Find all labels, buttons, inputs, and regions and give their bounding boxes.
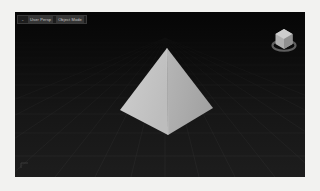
viewport-header-overlay[interactable]: ⌄ User Persp Object Mode (17, 15, 87, 24)
view-cube-gizmo[interactable] (267, 22, 301, 56)
screenshot-root: ⌄ User Persp Object Mode (0, 0, 320, 191)
object-mode-label[interactable]: Object Mode (56, 16, 84, 23)
view-perspective-label[interactable]: User Persp (28, 16, 53, 23)
chevron-down-icon[interactable]: ⌄ (20, 16, 25, 23)
viewport-canvas[interactable] (15, 12, 305, 177)
corner-mark-icon (20, 162, 29, 169)
3d-viewport[interactable]: ⌄ User Persp Object Mode (15, 12, 305, 177)
